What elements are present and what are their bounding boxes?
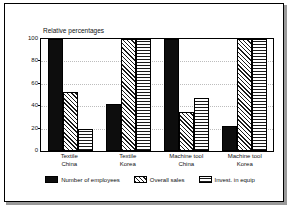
y-tick-label-60: 60: [16, 80, 38, 86]
chart-figure: Relative percentages 100 80 60 40 20 0: [0, 0, 290, 210]
legend-entry-employees[interactable]: Number of employees: [45, 176, 120, 183]
bar-employees-machine-tool-korea[interactable]: [222, 126, 237, 151]
bar-groups: [41, 39, 273, 151]
y-tick-label-40: 40: [16, 102, 38, 108]
x-label-line-1: Machine tool: [216, 153, 275, 161]
bar-invest-machine-tool-china[interactable]: [194, 98, 209, 151]
bar-group-machine-tool-china: [157, 39, 215, 151]
x-label-line-2: China: [157, 161, 216, 169]
x-axis-labels: Textile China Textile Korea Machine tool…: [40, 153, 274, 168]
bar-sales-textile-china[interactable]: [63, 92, 78, 151]
chart-title: Relative percentages: [43, 27, 104, 34]
legend-label-sales: Overall sales: [150, 177, 185, 183]
bar-employees-textile-china[interactable]: [48, 39, 63, 151]
bar-group-textile-korea: [99, 39, 157, 151]
bar-sales-machine-tool-korea[interactable]: [237, 39, 252, 151]
x-label-textile-korea: Textile Korea: [99, 153, 158, 168]
legend-swatch-invest: [199, 176, 212, 183]
x-label-line-1: Textile: [99, 153, 158, 161]
x-label-textile-china: Textile China: [40, 153, 99, 168]
bar-group-textile-china: [41, 39, 99, 151]
bar-employees-textile-korea[interactable]: [106, 104, 121, 151]
y-tick-label-0: 0: [16, 147, 38, 153]
x-label-line-1: Machine tool: [157, 153, 216, 161]
bar-employees-machine-tool-china[interactable]: [164, 39, 179, 151]
chart-legend: Number of employees Overall sales Invest…: [30, 176, 270, 183]
legend-entry-sales[interactable]: Overall sales: [134, 176, 185, 183]
bar-group-machine-tool-korea: [215, 39, 273, 151]
legend-label-employees: Number of employees: [61, 177, 120, 183]
legend-label-invest: Invest. in equip: [215, 177, 255, 183]
bar-sales-textile-korea[interactable]: [121, 39, 136, 151]
y-tick-label-100: 100: [16, 35, 38, 41]
bar-invest-textile-china[interactable]: [78, 129, 93, 151]
bar-invest-machine-tool-korea[interactable]: [252, 39, 267, 151]
y-tick-label-20: 20: [16, 125, 38, 131]
plot-area: [40, 38, 274, 152]
x-label-line-2: China: [40, 161, 99, 169]
x-label-line-2: Korea: [99, 161, 158, 169]
x-label-line-1: Textile: [40, 153, 99, 161]
legend-swatch-sales: [134, 176, 147, 183]
bar-sales-machine-tool-china[interactable]: [179, 112, 194, 151]
legend-entry-invest[interactable]: Invest. in equip: [199, 176, 255, 183]
bar-invest-textile-korea[interactable]: [136, 39, 151, 151]
legend-swatch-employees: [45, 176, 58, 183]
x-label-machine-tool-korea: Machine tool Korea: [216, 153, 275, 168]
y-axis: 100 80 60 40 20 0: [12, 38, 38, 151]
x-label-machine-tool-china: Machine tool China: [157, 153, 216, 168]
x-label-line-2: Korea: [216, 161, 275, 169]
y-tick-label-80: 80: [16, 57, 38, 63]
